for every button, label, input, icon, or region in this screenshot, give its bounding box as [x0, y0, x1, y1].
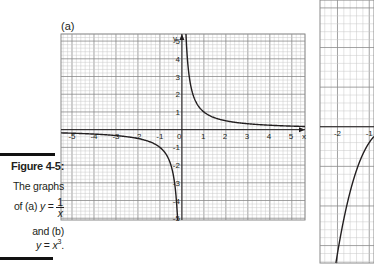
chart-b-tick-labels: -2-1 — [334, 129, 373, 138]
caption-title: Figure 4-5: — [0, 160, 64, 172]
caption-line-2-eq: = — [45, 200, 56, 212]
chart-b-curves — [336, 136, 374, 263]
x-tick-label: -1 — [366, 129, 374, 138]
caption-line-4-eq: = — [41, 239, 52, 251]
caption-line-3: and (b) — [0, 225, 64, 237]
caption-line-2-prefix: of (a) — [14, 200, 40, 212]
x-tick-label: -2 — [334, 129, 342, 138]
figure: (a) yx-5-4-3-2-1012345-5-4-3-2-112345 -2… — [0, 0, 374, 266]
caption-top-rule — [0, 153, 55, 156]
fraction-denominator: x — [56, 208, 64, 218]
caption-line-2: of (a) y = 1x — [0, 197, 64, 218]
caption-fraction: 1x — [56, 197, 64, 218]
caption-line-1: The graphs — [0, 180, 64, 192]
caption-line-4: y = x3. — [0, 238, 64, 251]
caption-bottom-rule — [0, 257, 53, 260]
caption-line-4-end: . — [61, 239, 64, 251]
curve-y-x-3 — [336, 136, 374, 263]
